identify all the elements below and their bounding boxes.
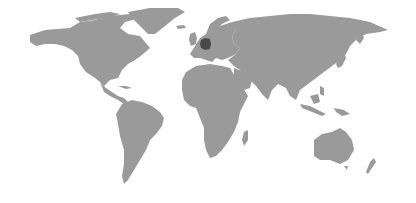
region-uk[interactable] [189,32,197,46]
region-indonesia[interactable] [300,104,326,116]
region-south-america[interactable] [116,100,164,184]
region-new-zealand[interactable] [366,158,376,174]
region-iceland[interactable] [176,25,186,29]
region-greenland[interactable] [128,8,185,34]
region-australia[interactable] [314,128,354,164]
region-madagascar[interactable] [242,130,248,146]
region-tasmania[interactable] [344,166,348,170]
region-north-america[interactable] [30,14,150,86]
region-germany[interactable] [200,38,211,50]
region-asia[interactable] [228,14,388,100]
region-philippines[interactable] [320,86,324,96]
region-caribbean[interactable] [118,86,132,89]
region-new-guinea[interactable] [334,108,350,116]
region-borneo[interactable] [310,94,320,104]
world-map [0,0,416,203]
